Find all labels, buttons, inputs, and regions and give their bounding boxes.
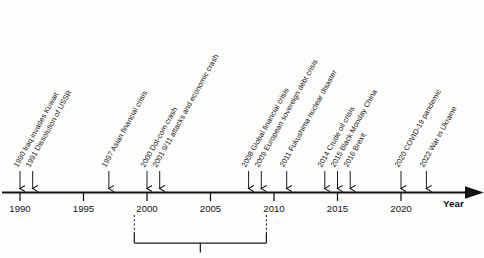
axis-tick-label-2005: 2005 [200, 204, 221, 214]
axis-tick-label-1995: 1995 [73, 204, 94, 214]
axis-tick-label-2020: 2020 [390, 204, 411, 214]
timeline-figure: 1990 Iraq invades Kuwait1991 Dissolution… [0, 0, 484, 258]
event-arrows [20, 171, 426, 189]
period-bracket [134, 215, 266, 253]
axis-tick-label-1990: 1990 [9, 204, 30, 214]
axis-tick-label-2015: 2015 [327, 204, 348, 214]
axis-title-year: Year [443, 199, 464, 209]
axis-ticks [20, 193, 401, 202]
axis-tick-label-2010: 2010 [263, 204, 284, 214]
axis-tick-label-2000: 2000 [136, 204, 157, 214]
